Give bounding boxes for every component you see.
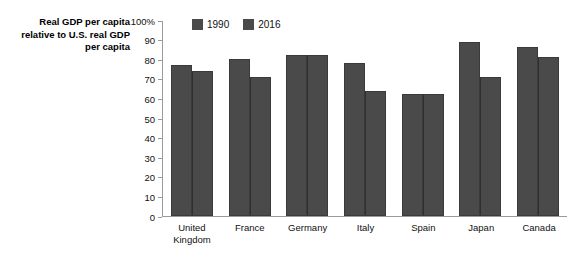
bar-1990[interactable] [344,63,365,216]
y-axis-tick-label: 60 [144,94,158,105]
bar-group [336,21,394,216]
x-axis-label-line: Kingdom [163,234,221,246]
y-axis-tick-mark [158,99,162,100]
y-axis-tick: 0 [150,211,162,223]
y-axis-tick-mark [158,21,162,22]
bar-2016[interactable] [192,71,213,216]
bar-2016[interactable] [307,55,328,216]
y-axis-title: Real GDP per capita relative to U.S. rea… [8,16,130,54]
y-axis-title-line-1: Real GDP per capita [8,16,130,29]
y-axis-tick-mark [158,158,162,159]
x-axis-label: Italy [337,222,395,245]
x-axis-label: Spain [394,222,452,245]
x-axis-label-line: United [163,222,221,234]
y-axis-title-line-2: relative to U.S. real GDP [8,29,130,42]
y-axis-tick: 60 [144,93,162,105]
x-axis-label: France [221,222,279,245]
bar-groups [163,21,567,216]
y-axis-tick-label: 80 [144,55,158,66]
bar-group [278,21,336,216]
y-axis-tick: 90 [144,35,162,47]
bar-group [221,21,279,216]
y-axis-tick-mark [158,177,162,178]
x-axis-label-line: Germany [279,222,337,234]
bar-2016[interactable] [538,57,559,216]
bar-1990[interactable] [171,65,192,216]
y-axis-tick-label: 0 [150,212,158,223]
bar-1990[interactable] [286,55,307,216]
y-axis-tick: 10 [144,191,162,203]
x-axis-label: UnitedKingdom [163,222,221,245]
y-axis-tick-mark [158,119,162,120]
bar-2016[interactable] [250,77,271,216]
bar-1990[interactable] [517,47,538,216]
x-axis-labels: UnitedKingdomFranceGermanyItalySpainJapa… [163,222,568,245]
y-axis-tick-mark [158,40,162,41]
y-axis-tick-label: 30 [144,153,158,164]
bar-2016[interactable] [423,94,444,216]
plot-area: 100%9080706050403020100 [162,21,567,217]
y-axis-tick-label: 10 [144,192,158,203]
y-axis-tick-label: 20 [144,172,158,183]
y-axis-tick-mark [158,60,162,61]
bar-1990[interactable] [229,59,250,216]
y-axis-tick-label: 40 [144,133,158,144]
bar-2016[interactable] [365,91,386,216]
x-axis-label-line: France [221,222,279,234]
x-axis-line [162,216,567,217]
y-axis-title-line-3: per capita [8,41,130,54]
bar-group [394,21,452,216]
x-axis-label: Canada [510,222,568,245]
bar-group [163,21,221,216]
y-axis-tick-mark [158,138,162,139]
y-axis-tick: 40 [144,133,162,145]
y-axis-tick-label: 100% [131,16,158,27]
x-axis-label-line: Spain [394,222,452,234]
bar-1990[interactable] [459,42,480,216]
y-axis-tick-label: 50 [144,114,158,125]
y-axis-tick: 50 [144,113,162,125]
bar-1990[interactable] [402,94,423,216]
y-axis-tick-mark [158,79,162,80]
bar-group [509,21,567,216]
x-axis-label: Germany [279,222,337,245]
x-axis-label-line: Canada [510,222,568,234]
y-axis-tick: 30 [144,152,162,164]
x-axis-label-line: Italy [337,222,395,234]
y-axis-tick: 20 [144,172,162,184]
y-axis-tick: 100% [131,15,162,27]
y-axis-tick-mark [158,197,162,198]
y-axis-tick-label: 70 [144,74,158,85]
x-axis-label-line: Japan [452,222,510,234]
bar-2016[interactable] [480,77,501,216]
y-axis-tick-label: 90 [144,35,158,46]
y-axis-tick: 80 [144,54,162,66]
y-axis-tick: 70 [144,74,162,86]
bar-group [452,21,510,216]
x-axis-label: Japan [452,222,510,245]
